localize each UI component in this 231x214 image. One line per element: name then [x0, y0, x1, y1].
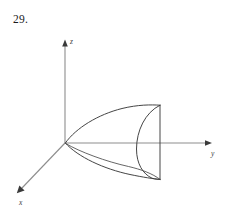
y-axis-label: y [210, 149, 215, 158]
y-axis-arrowhead [205, 140, 212, 146]
z-axis: z [62, 37, 73, 143]
paraboloid-upper-silhouette [66, 105, 161, 143]
figure-container: 29. z y x [0, 0, 231, 214]
z-axis-arrowhead [62, 40, 68, 47]
paraboloid-cap-rim-ellipse [137, 105, 161, 179]
paraboloid-surface [66, 105, 161, 179]
y-axis: y [65, 140, 215, 158]
paraboloid-diagram: z y x [0, 0, 231, 214]
x-axis-label: x [18, 198, 23, 207]
x-axis-line [22, 143, 65, 188]
x-axis: x [17, 143, 65, 207]
z-axis-label: z [69, 37, 73, 46]
axes-group: z y x [17, 37, 215, 207]
